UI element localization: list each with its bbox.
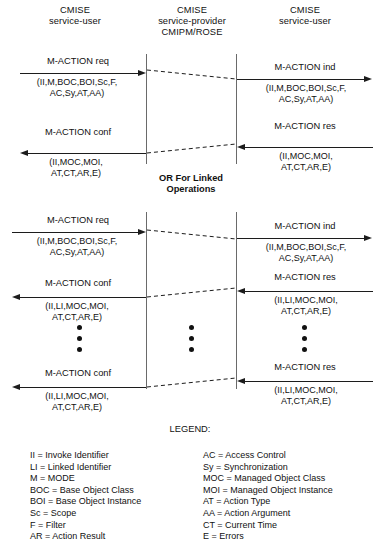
message-params-conf-3: (II,LI,MOC,MOI, AT,CT,AR,E) (8, 391, 146, 412)
arrowhead-res-1-icon (237, 144, 245, 150)
message-params-req-2: (II,M,BOC,BOI,Sc,F, AC,Sy,AT,AA) (6, 236, 148, 257)
section-divider-label: OR For Linked Operations (126, 173, 256, 195)
legend-item: CT = Current Time (203, 520, 333, 532)
message-params-conf-2: (II,LI,MOC,MOI, AT,CT,AR,E) (8, 301, 146, 322)
column-header-provider: CMISE service-provider CMIPM/ROSE (137, 5, 247, 38)
column-header-provider-line-2: service-provider (137, 16, 247, 27)
message-arrow-ind-1 (237, 79, 365, 80)
message-label-res-3: M-ACTION res (240, 362, 370, 373)
message-params-req-1: (II,M,BOC,BOI,Sc,F, AC,Sy,AT,AA) (6, 77, 148, 98)
section-divider-label-line-1: OR For Linked (126, 173, 256, 184)
message-label-res-1: M-ACTION res (240, 121, 370, 132)
ellipsis-dots-right (302, 325, 307, 352)
message-label-req-1: M-ACTION req (10, 56, 146, 67)
column-header-right-actor-line-2: service-user (250, 16, 360, 27)
arrowhead-req-1-icon (138, 70, 146, 76)
sequence-diagram-canvas: CMISE service-user CMISE service-provide… (0, 0, 380, 549)
message-arrow-req-1 (20, 73, 138, 74)
legend-item: LI = Linked Identifier (30, 462, 141, 474)
message-arrow-req-2 (12, 232, 138, 233)
message-label-conf-2: M-ACTION conf (10, 278, 146, 289)
legend-column-right: AC = Access Control Sy = Synchronization… (203, 450, 333, 543)
legend-item: AR = Action Result (30, 531, 141, 543)
arrowhead-res-3-icon (237, 378, 245, 384)
message-arrow-res-3 (245, 381, 373, 382)
arrowhead-ind-2-icon (364, 235, 372, 241)
message-params-ind-1: (II,M,BOC,BOI,Sc,F, AC,Sy,AT,AA) (236, 83, 376, 104)
ellipsis-dots-left (77, 325, 82, 352)
message-label-ind-1: M-ACTION ind (240, 62, 370, 73)
message-label-conf-3: M-ACTION conf (10, 368, 146, 379)
arrowhead-ind-1-icon (364, 76, 372, 82)
column-header-provider-line-1: CMISE (137, 5, 247, 16)
message-label-res-2: M-ACTION res (240, 272, 370, 283)
arrowhead-req-2-icon (138, 229, 146, 235)
provider-dash-connector-4 (147, 284, 236, 300)
provider-dash-connector-5 (147, 374, 236, 390)
column-header-left-actor-line-1: CMISE (20, 5, 130, 16)
message-arrow-conf-3 (20, 387, 146, 388)
legend-item: Sy = Synchronization (203, 462, 333, 474)
arrowhead-conf-3-icon (12, 384, 20, 390)
legend-title: LEGEND: (140, 424, 240, 435)
legend-item: AT = Action Type (203, 496, 333, 508)
legend-item: MOI = Managed Object Instance (203, 485, 333, 497)
legend-item: MOC = Managed Object Class (203, 473, 333, 485)
provider-dash-connector-2 (147, 140, 236, 156)
column-header-left-actor-line-2: service-user (20, 16, 130, 27)
column-header-right-actor-line-1: CMISE (250, 5, 360, 16)
ellipsis-dot (189, 336, 194, 341)
arrowhead-conf-1-icon (20, 150, 28, 156)
legend-item: Sc = Scope (30, 508, 141, 520)
provider-dash-connector-1 (147, 66, 236, 82)
provider-dash-connector-3 (147, 226, 236, 242)
legend-item: II = Invoke Identifier (30, 450, 141, 462)
legend-item: BOI = Base Object Instance (30, 496, 141, 508)
message-arrow-ind-2 (237, 238, 365, 239)
legend-item: BOC = Base Object Class (30, 485, 141, 497)
message-label-conf-1: M-ACTION conf (10, 127, 146, 138)
message-label-ind-2: M-ACTION ind (240, 221, 370, 232)
arrowhead-conf-2-icon (12, 294, 20, 300)
legend-item: M = MODE (30, 473, 141, 485)
message-arrow-conf-1 (28, 153, 146, 154)
legend-item: F = Filter (30, 520, 141, 532)
ellipsis-dot (77, 347, 82, 352)
ellipsis-dot (77, 336, 82, 341)
ellipsis-dot (77, 325, 82, 330)
message-params-ind-2: (II,M,BOC,BOI,Sc,F, AC,Sy,AT,AA) (236, 242, 376, 263)
message-arrow-res-2 (245, 291, 373, 292)
message-arrow-res-1 (245, 147, 373, 148)
column-header-left-actor: CMISE service-user (20, 5, 130, 27)
column-header-provider-line-3: CMIPM/ROSE (137, 27, 247, 38)
ellipsis-dot (189, 347, 194, 352)
message-params-res-2: (II,LI,MOC,MOI, AT,CT,AR,E) (236, 295, 376, 316)
message-params-conf-1: (II,MOC,MOI, AT,CT,AR,E) (12, 157, 140, 178)
message-params-res-1: (II,MOC,MOI, AT,CT,AR,E) (236, 151, 376, 172)
message-label-req-2: M-ACTION req (10, 215, 146, 226)
legend-item: AC = Access Control (203, 450, 333, 462)
ellipsis-dots-center (189, 325, 194, 352)
arrowhead-res-2-icon (237, 288, 245, 294)
legend-column-left: II = Invoke Identifier LI = Linked Ident… (30, 450, 141, 543)
legend-item: E = Errors (203, 531, 333, 543)
legend-item: AA = Action Argument (203, 508, 333, 520)
ellipsis-dot (302, 336, 307, 341)
section-divider-label-line-2: Operations (126, 184, 256, 195)
ellipsis-dot (302, 325, 307, 330)
message-arrow-conf-2 (20, 297, 146, 298)
column-header-right-actor: CMISE service-user (250, 5, 360, 27)
ellipsis-dot (189, 325, 194, 330)
message-params-res-3: (II,LI,MOC,MOI, AT,CT,AR,E) (236, 385, 376, 406)
ellipsis-dot (302, 347, 307, 352)
